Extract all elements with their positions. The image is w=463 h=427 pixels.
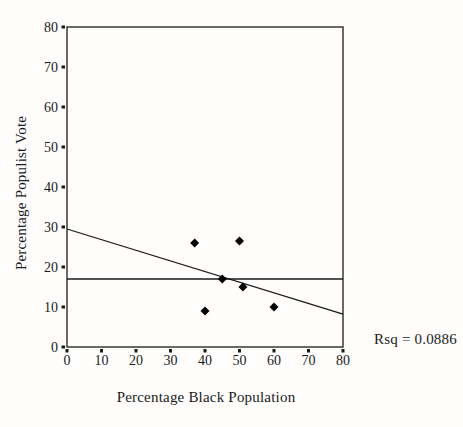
y-tick-label: 40	[44, 180, 58, 195]
x-tick	[273, 349, 276, 353]
x-tick-label: 80	[336, 353, 350, 368]
plot-area: 0102030405060708001020304050607080	[0, 0, 463, 427]
y-tick-label: 20	[44, 260, 58, 275]
y-tick-label: 80	[44, 20, 58, 35]
x-tick	[135, 349, 138, 353]
y-tick	[62, 226, 66, 229]
x-tick-label: 70	[302, 353, 316, 368]
y-tick-label: 60	[44, 100, 58, 115]
x-tick-label: 20	[129, 353, 143, 368]
data-point-marker	[235, 237, 244, 246]
y-tick	[62, 146, 66, 149]
data-point-marker	[270, 303, 279, 312]
x-tick	[100, 349, 103, 353]
y-tick-label: 70	[44, 60, 58, 75]
y-axis-title: Percentage Populist Vote	[13, 116, 30, 270]
x-tick	[307, 349, 310, 353]
scatterplot-figure: 0102030405060708001020304050607080 Perce…	[0, 0, 463, 427]
y-tick	[62, 346, 66, 349]
x-tick-label: 30	[164, 353, 178, 368]
y-tick-label: 10	[44, 300, 58, 315]
y-tick	[62, 26, 66, 29]
x-tick-label: 0	[64, 353, 71, 368]
x-tick	[342, 349, 345, 353]
data-point-marker	[190, 239, 199, 248]
x-tick-label: 50	[233, 353, 247, 368]
data-point-marker	[201, 307, 210, 316]
regression-line	[67, 229, 343, 314]
x-tick-label: 10	[95, 353, 109, 368]
y-tick-label: 30	[44, 220, 58, 235]
y-tick-label: 50	[44, 140, 58, 155]
x-tick	[169, 349, 172, 353]
x-tick-label: 40	[198, 353, 212, 368]
x-tick	[238, 349, 241, 353]
x-tick	[66, 349, 69, 353]
plot-border	[67, 27, 343, 347]
y-tick	[62, 266, 66, 269]
rsq-annotation: Rsq = 0.0886	[374, 331, 457, 348]
x-tick	[204, 349, 207, 353]
y-tick-label: 0	[51, 340, 58, 355]
y-tick	[62, 66, 66, 69]
y-tick	[62, 186, 66, 189]
x-tick-label: 60	[267, 353, 281, 368]
x-axis-title: Percentage Black Population	[117, 389, 296, 406]
y-tick	[62, 306, 66, 309]
y-tick	[62, 106, 66, 109]
